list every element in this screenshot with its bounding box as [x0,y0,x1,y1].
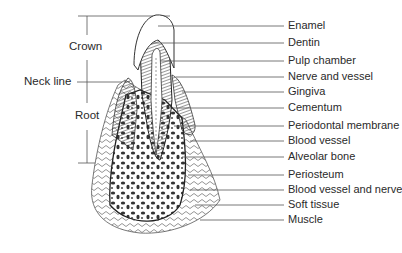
label-muscle: Muscle [288,213,323,226]
label-gingiva: Gingiva [288,85,325,98]
label-pulp-chamber: Pulp chamber [288,54,356,67]
label-soft-tissue: Soft tissue [288,198,339,211]
label-crown: Crown [69,40,102,53]
label-blood-vessel-and-nerve: Blood vessel and nerve [288,183,402,196]
label-enamel: Enamel [288,19,325,32]
label-periosteum: Periosteum [288,168,344,181]
label-nerve-and-vessel: Nerve and vessel [288,70,373,83]
label-blood-vessel: Blood vessel [288,134,350,147]
label-neck-line: Neck line [24,75,71,88]
label-root: Root [75,109,99,122]
label-dentin: Dentin [288,36,320,49]
label-cementum: Cementum [288,101,342,114]
label-alveolar-bone: Alveolar bone [288,150,355,163]
label-periodontal-membrane: Periodontal membrane [288,119,399,132]
